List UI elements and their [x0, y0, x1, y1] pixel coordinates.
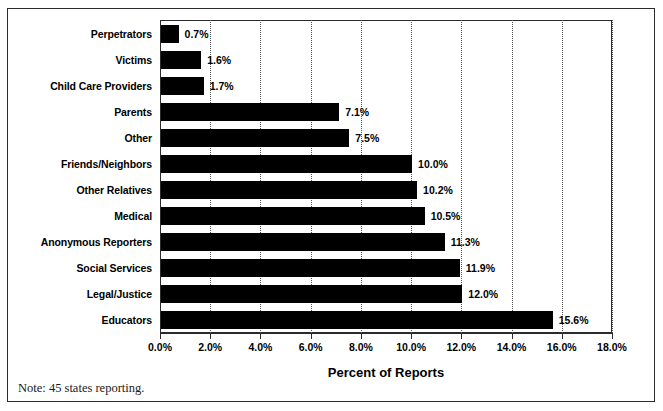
x-tick-label: 4.0%	[248, 341, 272, 353]
chart-row: Friends/Neighbors10.0%	[0, 151, 663, 177]
x-tick-label: 2.0%	[198, 341, 222, 353]
category-label: Parents	[0, 99, 152, 125]
x-tick-label: 8.0%	[349, 341, 373, 353]
bar	[161, 77, 204, 95]
x-tick	[461, 333, 462, 339]
x-axis-line	[160, 333, 612, 334]
chart-row: Child Care Providers1.7%	[0, 73, 663, 99]
bar-value-label: 11.3%	[451, 229, 480, 255]
x-tick	[311, 333, 312, 339]
x-tick	[210, 333, 211, 339]
category-label: Perpetrators	[0, 21, 152, 47]
chart-row: Victims1.6%	[0, 47, 663, 73]
chart-page: Perpetrators0.7%Victims1.6%Child Care Pr…	[0, 0, 663, 411]
chart-note: Note: 45 states reporting.	[18, 381, 144, 396]
bar-value-label: 1.7%	[210, 73, 234, 99]
chart-row: Legal/Justice12.0%	[0, 281, 663, 307]
category-label: Anonymous Reporters	[0, 229, 152, 255]
bar	[161, 51, 201, 69]
x-tick-label: 18.0%	[597, 341, 627, 353]
chart-row: Other7.5%	[0, 125, 663, 151]
bar	[161, 207, 425, 225]
bar	[161, 129, 349, 147]
bar-value-label: 10.5%	[431, 203, 461, 229]
chart-row: Perpetrators0.7%	[0, 21, 663, 47]
bar	[161, 233, 445, 251]
bar	[161, 103, 339, 121]
x-tick-label: 0.0%	[148, 341, 172, 353]
category-label: Legal/Justice	[0, 281, 152, 307]
category-label: Other Relatives	[0, 177, 152, 203]
x-tick	[411, 333, 412, 339]
category-label: Friends/Neighbors	[0, 151, 152, 177]
bar	[161, 285, 462, 303]
bar-value-label: 7.5%	[355, 125, 379, 151]
bar	[161, 259, 460, 277]
chart-row: Parents7.1%	[0, 99, 663, 125]
category-label: Social Services	[0, 255, 152, 281]
category-label: Child Care Providers	[0, 73, 152, 99]
chart-row: Medical10.5%	[0, 203, 663, 229]
x-tick-label: 12.0%	[446, 341, 476, 353]
x-tick	[512, 333, 513, 339]
chart-row: Anonymous Reporters11.3%	[0, 229, 663, 255]
x-axis-title: Percent of Reports	[160, 365, 612, 380]
x-tick-label: 14.0%	[497, 341, 527, 353]
bar-value-label: 7.1%	[345, 99, 369, 125]
x-tick-label: 16.0%	[547, 341, 577, 353]
bar-value-label: 11.9%	[466, 255, 495, 281]
bar-value-label: 12.0%	[468, 281, 498, 307]
category-label: Victims	[0, 47, 152, 73]
category-label: Educators	[0, 307, 152, 333]
chart-row: Educators15.6%	[0, 307, 663, 333]
x-tick-label: 6.0%	[299, 341, 323, 353]
x-tick	[260, 333, 261, 339]
bar	[161, 181, 417, 199]
x-tick	[612, 333, 613, 339]
x-tick	[361, 333, 362, 339]
bar-value-label: 0.7%	[185, 21, 209, 47]
x-tick	[562, 333, 563, 339]
bar	[161, 311, 553, 329]
bar	[161, 25, 179, 43]
category-label: Medical	[0, 203, 152, 229]
x-tick-label: 10.0%	[396, 341, 426, 353]
chart-row: Other Relatives10.2%	[0, 177, 663, 203]
category-label: Other	[0, 125, 152, 151]
bar	[161, 155, 412, 173]
bar-value-label: 10.2%	[423, 177, 453, 203]
bar-value-label: 10.0%	[418, 151, 448, 177]
chart-row: Social Services11.9%	[0, 255, 663, 281]
bar-value-label: 15.6%	[559, 307, 589, 333]
x-tick	[160, 333, 161, 339]
bar-value-label: 1.6%	[207, 47, 231, 73]
